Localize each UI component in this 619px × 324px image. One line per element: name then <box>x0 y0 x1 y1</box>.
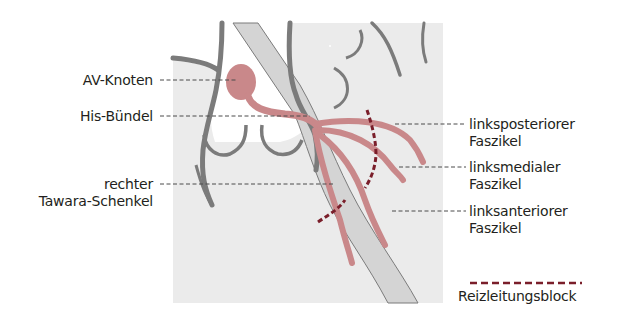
legend-label: Reizleitungsblock <box>458 288 577 305</box>
label-linksmedialer-faszikel: linksmedialer Faszikel <box>469 159 560 193</box>
label-rechter-tawara-schenkel: rechter Tawara-Schenkel <box>39 176 153 210</box>
av-node-shape <box>226 64 256 100</box>
label-linksposteriorer-line2: Faszikel <box>469 133 575 150</box>
label-his-buendel-text: His-Bündel <box>80 108 153 124</box>
label-linksposteriorer-line1: linksposteriorer <box>469 116 575 133</box>
label-linksmedialer-line2: Faszikel <box>469 176 560 193</box>
label-av-knoten-text: AV-Knoten <box>83 72 153 88</box>
label-linksanteriorer-line1: linksanteriorer <box>469 203 568 220</box>
label-linksposteriorer-faszikel: linksposteriorer Faszikel <box>469 116 575 150</box>
label-rechter-line1: rechter <box>39 176 153 193</box>
label-rechter-line2: Tawara-Schenkel <box>39 193 153 210</box>
label-his-buendel: His-Bündel <box>80 108 153 125</box>
label-linksanteriorer-faszikel: linksanteriorer Faszikel <box>469 203 568 237</box>
label-av-knoten: AV-Knoten <box>83 72 153 89</box>
legend-label-text: Reizleitungsblock <box>458 288 577 304</box>
aortic-cusp-white-fill <box>329 45 331 47</box>
label-linksmedialer-line1: linksmedialer <box>469 159 560 176</box>
conduction-system-diagram: AV-Knoten His-Bündel rechter Tawara-Sche… <box>0 0 619 324</box>
label-linksanteriorer-line2: Faszikel <box>469 220 568 237</box>
